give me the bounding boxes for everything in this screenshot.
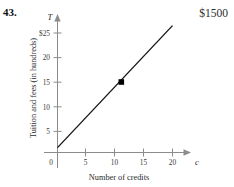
- x-axis-variable-label: c: [195, 157, 199, 167]
- y-tick-label-10: 10: [43, 103, 51, 112]
- y-tick-label-25: $25: [39, 29, 50, 38]
- y-tick-label-15: 15: [43, 78, 51, 87]
- x-tick-label-10: 10: [111, 158, 119, 167]
- tuition-line-graph: $25 20 15 10 5 0 5 10 15 20 T c Number o…: [0, 0, 234, 187]
- data-point-marker: [119, 79, 125, 85]
- exercise-number: 43.: [3, 6, 17, 18]
- y-tick-label-20: 20: [43, 53, 51, 62]
- y-axis-variable-label: T: [48, 12, 54, 22]
- answer-value: $1500: [199, 7, 228, 19]
- x-tick-label-5: 5: [84, 158, 88, 167]
- x-axis-arrow-icon: [184, 149, 192, 155]
- y-axis-title: Tuition and fees (in hundreds): [29, 38, 38, 138]
- x-axis-title: Number of credits: [89, 173, 149, 182]
- origin-label: 0: [49, 158, 53, 167]
- x-tick-label-15: 15: [140, 158, 148, 167]
- y-axis-arrow-icon: [54, 14, 60, 22]
- x-tick-label-20: 20: [169, 158, 177, 167]
- tuition-trend-line: [58, 26, 173, 148]
- y-tick-label-5: 5: [46, 127, 50, 136]
